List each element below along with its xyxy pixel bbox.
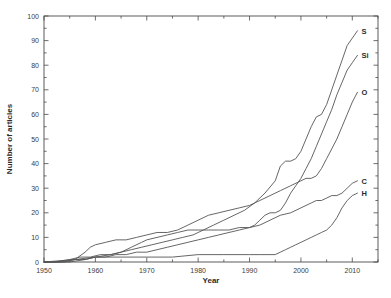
series-label-c: C bbox=[361, 177, 367, 186]
series-label-o: O bbox=[361, 88, 367, 97]
x-axis-title: Year bbox=[203, 276, 220, 285]
series-line-o bbox=[44, 92, 357, 262]
x-tick-label: 2000 bbox=[293, 267, 309, 274]
y-tick-label: 20 bbox=[31, 209, 39, 216]
y-tick-label: 90 bbox=[31, 37, 39, 44]
y-tick-label: 30 bbox=[31, 185, 39, 192]
x-tick-label: 2010 bbox=[345, 267, 361, 274]
plot-frame bbox=[44, 16, 378, 262]
chart-figure: 1950196019701980199020002010 01020304050… bbox=[0, 0, 391, 298]
series-label-h: H bbox=[361, 189, 366, 198]
series-label-si: Si bbox=[361, 51, 368, 60]
x-tick-label: 1990 bbox=[242, 267, 258, 274]
series-end-labels: SSiOCH bbox=[361, 27, 368, 198]
y-tick-label: 80 bbox=[31, 62, 39, 69]
y-axis-ticks bbox=[44, 16, 378, 262]
series-line-s bbox=[44, 31, 357, 262]
data-series-group bbox=[44, 31, 357, 262]
x-axis-tick-labels: 1950196019701980199020002010 bbox=[36, 267, 360, 274]
y-tick-label: 50 bbox=[31, 136, 39, 143]
y-tick-label: 40 bbox=[31, 160, 39, 167]
y-tick-label: 60 bbox=[31, 111, 39, 118]
x-tick-label: 1960 bbox=[88, 267, 104, 274]
x-axis-ticks bbox=[44, 16, 378, 262]
y-axis-tick-labels: 0102030405060708090100 bbox=[27, 13, 39, 266]
x-tick-label: 1970 bbox=[139, 267, 155, 274]
series-label-s: S bbox=[361, 27, 366, 36]
line-chart: 1950196019701980199020002010 01020304050… bbox=[0, 0, 391, 298]
x-tick-label: 1980 bbox=[190, 267, 206, 274]
y-tick-label: 10 bbox=[31, 234, 39, 241]
series-line-c bbox=[44, 181, 357, 262]
y-tick-label: 100 bbox=[27, 13, 39, 20]
y-axis-title: Number of articles bbox=[5, 103, 14, 174]
y-tick-label: 70 bbox=[31, 86, 39, 93]
x-tick-label: 1950 bbox=[36, 267, 52, 274]
y-tick-label: 0 bbox=[35, 259, 39, 266]
